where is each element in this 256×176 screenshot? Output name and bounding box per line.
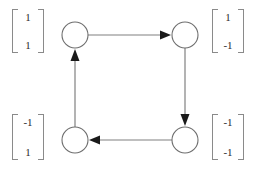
vector-entries: -1 -1 [218, 114, 238, 160]
node-bottom-right[interactable] [172, 127, 198, 153]
diagram-canvas: 1 1 1 -1 -1 1 -1 -1 [0, 0, 256, 176]
edge-right-arrowhead [181, 114, 190, 126]
bracket-right-icon [38, 9, 44, 53]
vector-entry-second: -1 [223, 146, 232, 158]
vector-entry-first: -1 [23, 116, 32, 128]
vector-entry-first: 1 [25, 11, 31, 23]
vector-entries: -1 1 [18, 114, 38, 160]
node-group [62, 22, 198, 153]
vector-entry-second: 1 [25, 39, 31, 51]
vector-label-top-right: 1 -1 [212, 9, 244, 53]
vector-entry-second: -1 [223, 39, 232, 51]
vector-entries: 1 -1 [218, 9, 238, 53]
bracket-right-icon [238, 114, 244, 160]
vector-label-top-left: 1 1 [12, 9, 44, 53]
edge-left-arrowhead [71, 49, 80, 61]
vector-label-bottom-right: -1 -1 [212, 114, 244, 160]
vector-entry-first: -1 [223, 116, 232, 128]
edge-top-arrowhead [160, 31, 171, 40]
vector-entries: 1 1 [18, 9, 38, 53]
bracket-right-icon [38, 114, 44, 160]
node-top-left[interactable] [62, 22, 88, 48]
node-bottom-left[interactable] [62, 127, 88, 153]
vector-entry-second: 1 [25, 146, 31, 158]
bracket-right-icon [238, 9, 244, 53]
node-top-right[interactable] [172, 22, 198, 48]
vector-label-bottom-left: -1 1 [12, 114, 44, 160]
vector-entry-first: 1 [225, 11, 231, 23]
edge-group [71, 31, 190, 145]
edge-bottom-arrowhead [89, 136, 100, 145]
